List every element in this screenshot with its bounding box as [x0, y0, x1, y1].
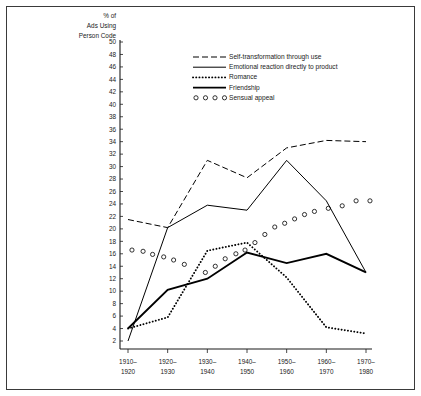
y-tick-label: 38: [109, 113, 117, 120]
plot-area: % of Ads Using Person Code 2468101214161…: [0, 0, 421, 396]
series-line-friendship: [128, 253, 366, 329]
chart-page: % of Ads Using Person Code 2468101214161…: [0, 0, 421, 396]
data-point-marker: [213, 264, 217, 268]
x-tick-label-top: 1960–: [317, 358, 335, 365]
data-series-group: [128, 140, 372, 341]
x-tick-label-top: 1950–: [278, 358, 296, 365]
x-tick-label-bottom: 1970: [319, 368, 334, 375]
y-tick-label: 12: [109, 275, 117, 282]
y-tick-label: 26: [109, 188, 117, 195]
y-tick-label: 20: [109, 225, 117, 232]
y-axis-title-line-2: Ads Using: [87, 22, 117, 30]
data-point-marker: [182, 262, 186, 266]
data-point-marker: [243, 248, 247, 252]
y-tick-label: 48: [109, 51, 117, 58]
y-axis-ticks: 2468101214161820222426283032343638404244…: [109, 38, 123, 344]
y-tick-label: 16: [109, 250, 117, 257]
y-tick-label: 32: [109, 150, 117, 157]
data-point-marker: [312, 209, 316, 213]
x-tick-label-bottom: 1920: [121, 368, 136, 375]
data-point-marker: [253, 240, 257, 244]
x-tick-label-top: 1970–: [357, 358, 375, 365]
y-tick-label: 6: [112, 312, 116, 319]
y-axis-title: % of Ads Using Person Code: [79, 12, 117, 39]
legend-marker-circle: [222, 96, 226, 100]
legend-label: Emotional reaction directly to product: [229, 63, 338, 71]
x-tick-label-bottom: 1930: [161, 368, 176, 375]
y-tick-label: 18: [109, 238, 117, 245]
y-tick-label: 24: [109, 200, 117, 207]
data-point-marker: [130, 248, 134, 252]
y-tick-label: 30: [109, 163, 117, 170]
y-tick-label: 34: [109, 138, 117, 145]
data-point-marker: [172, 258, 176, 262]
data-point-marker: [293, 217, 297, 221]
y-tick-label: 2: [112, 337, 116, 344]
x-tick-label-top: 1940–: [238, 358, 256, 365]
y-tick-label: 22: [109, 213, 117, 220]
x-tick-label-top: 1910–: [119, 358, 137, 365]
y-tick-label: 36: [109, 126, 117, 133]
x-tick-label-bottom: 1980: [359, 368, 374, 375]
y-tick-label: 8: [112, 300, 116, 307]
legend-marker-circle: [203, 96, 207, 100]
y-tick-label: 46: [109, 63, 117, 70]
series-sensual-appeal-markers: [130, 199, 372, 275]
y-tick-label: 28: [109, 175, 117, 182]
series-line-self-transformation-through-use: [128, 140, 366, 227]
data-point-marker: [141, 249, 145, 253]
data-point-marker: [283, 221, 287, 225]
data-point-marker: [302, 212, 306, 216]
y-tick-label: 40: [109, 101, 117, 108]
legend-label: Friendship: [229, 84, 260, 92]
data-point-marker: [326, 206, 330, 210]
data-point-marker: [223, 257, 227, 261]
legend-label: Self-transformation through use: [229, 53, 322, 61]
y-tick-label: 4: [112, 325, 116, 332]
data-point-marker: [263, 232, 267, 236]
legend-label: Romance: [229, 73, 258, 80]
data-point-marker: [150, 252, 154, 256]
line-chart-svg: % of Ads Using Person Code 2468101214161…: [0, 0, 421, 396]
x-axis-ticks: 1910–19201920–19301930–19401940–19501950…: [119, 349, 375, 375]
legend-label: Sensual appeal: [229, 94, 275, 102]
legend-marker-circle: [194, 96, 198, 100]
x-tick-label-bottom: 1940: [200, 368, 215, 375]
data-point-marker: [368, 199, 372, 203]
y-tick-label: 14: [109, 263, 117, 270]
x-tick-label-top: 1930–: [198, 358, 216, 365]
data-point-marker: [273, 225, 277, 229]
data-point-marker: [354, 199, 358, 203]
x-tick-label-bottom: 1960: [280, 368, 295, 375]
x-tick-label-top: 1920–: [159, 358, 177, 365]
y-tick-label: 50: [109, 38, 117, 45]
y-tick-label: 42: [109, 88, 117, 95]
data-point-marker: [203, 270, 207, 274]
chart-legend: Self-transformation through useEmotional…: [193, 53, 338, 102]
data-point-marker: [234, 252, 238, 256]
legend-marker-circle: [213, 96, 217, 100]
x-tick-label-bottom: 1950: [240, 368, 255, 375]
y-tick-label: 10: [109, 287, 117, 294]
data-point-marker: [162, 255, 166, 259]
y-tick-label: 44: [109, 76, 117, 83]
y-axis-title-line-1: % of: [103, 12, 116, 19]
data-point-marker: [340, 204, 344, 208]
